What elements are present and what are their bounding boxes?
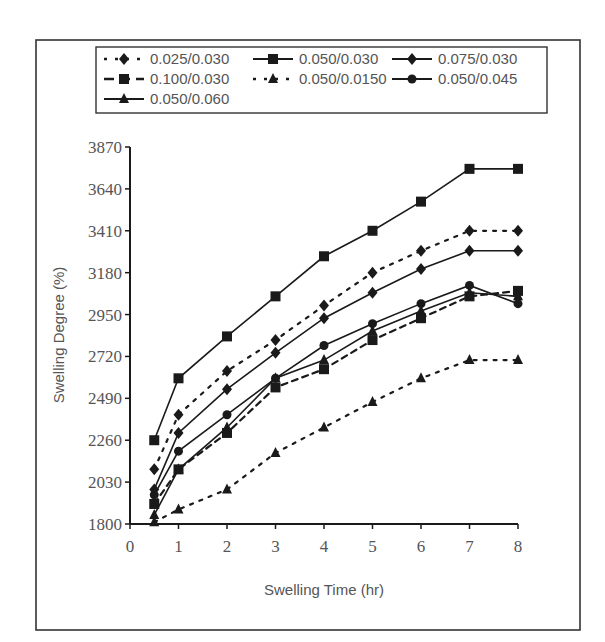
diamond-marker-icon <box>513 245 523 257</box>
square-marker-icon <box>149 435 159 445</box>
diamond-marker-icon <box>319 312 329 324</box>
circle-marker-icon <box>514 299 523 308</box>
circle-marker-icon <box>223 410 232 419</box>
square-marker-icon <box>368 226 378 236</box>
square-marker-icon <box>174 373 184 383</box>
square-marker-icon <box>513 164 523 174</box>
outer-frame <box>36 40 580 630</box>
y-axis-title: Swelling Degree (%) <box>50 267 67 404</box>
square-marker-icon <box>416 197 426 207</box>
y-tick-label: 3640 <box>88 180 122 199</box>
diamond-marker-icon <box>174 409 184 421</box>
y-tick-label: 2030 <box>88 473 122 492</box>
triangle-marker-icon <box>416 372 426 382</box>
diamond-marker-icon <box>149 463 159 475</box>
diamond-marker-icon <box>465 225 475 237</box>
x-tick-label: 7 <box>465 537 474 556</box>
series-0-050-0-0150 <box>149 354 523 526</box>
triangle-marker-icon <box>319 421 329 431</box>
diamond-marker-icon <box>368 267 378 279</box>
circle-marker-icon <box>320 341 329 350</box>
diamond-marker-icon <box>368 287 378 299</box>
chart-canvas: 0.025/0.0300.050/0.0300.075/0.0300.100/0… <box>0 0 605 642</box>
x-tick-label: 3 <box>271 537 280 556</box>
square-marker-icon <box>271 382 281 392</box>
y-tick-label: 2950 <box>88 306 122 325</box>
triangle-marker-icon <box>222 483 232 493</box>
x-tick-label: 8 <box>514 537 523 556</box>
diamond-marker-icon <box>513 225 523 237</box>
y-tick-label: 2490 <box>88 389 122 408</box>
y-tick-label: 1800 <box>88 515 122 534</box>
y-tick-label: 3410 <box>88 222 122 241</box>
x-tick-label: 5 <box>368 537 377 556</box>
square-marker-icon <box>368 335 378 345</box>
diamond-marker-icon <box>319 299 329 311</box>
y-tick-label: 3870 <box>88 138 122 157</box>
x-tick-label: 1 <box>174 537 183 556</box>
square-marker-icon <box>465 164 475 174</box>
diamond-marker-icon <box>271 334 281 346</box>
square-marker-icon <box>319 364 329 374</box>
legend-label: 0.075/0.030 <box>438 50 517 67</box>
x-axis-title: Swelling Time (hr) <box>264 581 384 598</box>
legend-label: 0.050/0.0150 <box>299 70 387 87</box>
legend-label: 0.100/0.030 <box>150 70 229 87</box>
series-0-050-0-030 <box>149 164 523 445</box>
legend-label: 0.050/0.045 <box>438 70 517 87</box>
x-tick-label: 0 <box>126 537 135 556</box>
legend-label: 0.050/0.060 <box>150 90 229 107</box>
x-tick-label: 4 <box>320 537 329 556</box>
series-0-050-0-060 <box>149 287 523 519</box>
square-marker-icon <box>119 74 129 84</box>
diamond-marker-icon <box>465 245 475 257</box>
circle-marker-icon <box>150 490 159 499</box>
y-tick-label: 2720 <box>88 347 122 366</box>
swelling-chart: 0.025/0.0300.050/0.0300.075/0.0300.100/0… <box>0 0 605 642</box>
diamond-marker-icon <box>416 263 426 275</box>
y-tick-label: 2260 <box>88 431 122 450</box>
triangle-marker-icon <box>149 509 159 519</box>
square-marker-icon <box>268 54 278 64</box>
square-marker-icon <box>222 331 232 341</box>
triangle-marker-icon <box>319 354 329 364</box>
triangle-marker-icon <box>465 354 475 364</box>
diamond-marker-icon <box>271 347 281 359</box>
series-0-050-0-045 <box>150 281 523 499</box>
x-tick-label: 6 <box>417 537 426 556</box>
square-marker-icon <box>271 291 281 301</box>
diamond-marker-icon <box>416 245 426 257</box>
legend-label: 0.050/0.030 <box>299 50 378 67</box>
plot-series <box>149 164 523 526</box>
square-marker-icon <box>319 251 329 261</box>
circle-marker-icon <box>408 75 417 84</box>
series-0-025-0-030 <box>149 225 523 476</box>
legend-label: 0.025/0.030 <box>150 50 229 67</box>
series-0-100-0-030 <box>149 286 523 509</box>
triangle-marker-icon <box>271 447 281 457</box>
circle-marker-icon <box>174 447 183 456</box>
x-tick-label: 2 <box>223 537 232 556</box>
y-tick-label: 3180 <box>88 264 122 283</box>
